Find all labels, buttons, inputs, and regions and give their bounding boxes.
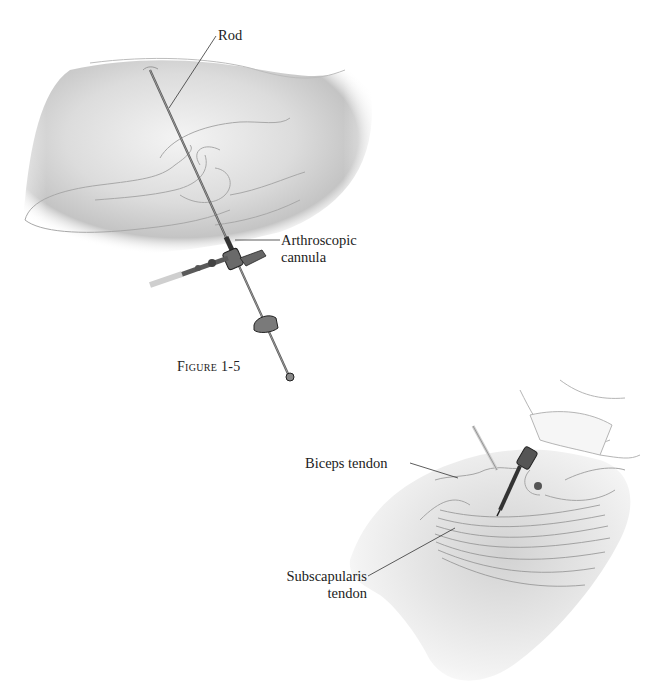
label-arthroscopic-line1: Arthroscopic (281, 232, 357, 249)
label-arthroscopic-line2: cannula (281, 249, 357, 266)
rod-ball-tip (286, 373, 294, 381)
label-rod: Rod (218, 27, 242, 44)
head-outline (520, 380, 640, 458)
figure-caption-number: 1-5 (221, 359, 241, 374)
label-subscapularis-tendon: Subscapularis tendon (227, 568, 367, 602)
shoulder-illustration (350, 380, 640, 681)
label-arthroscopic-cannula: Arthroscopic cannula (281, 232, 357, 266)
rod-stop-collar (254, 316, 278, 333)
label-biceps-tendon: Biceps tendon (305, 455, 388, 472)
label-subscapularis-line2: tendon (227, 585, 367, 602)
shoulder-skin-shape (350, 450, 631, 681)
figure-caption: Figure 1-5 (177, 359, 241, 375)
label-subscapularis-line1: Subscapularis (227, 568, 367, 585)
figure-caption-word: Figure (177, 359, 217, 374)
